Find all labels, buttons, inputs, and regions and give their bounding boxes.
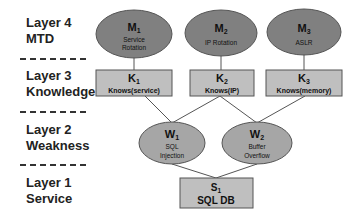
node-m2: M2 IP Rotation xyxy=(185,10,257,56)
node-k1-id: K xyxy=(128,72,136,84)
node-m3-id: M xyxy=(297,22,306,34)
edge-k3-w2 xyxy=(257,96,305,123)
node-k2-id: K xyxy=(216,72,224,84)
node-w1: W1 SQL Injection xyxy=(139,122,205,164)
layer-graph: M1 Service Rotation M2 IP Rotation M3 AS… xyxy=(0,0,359,220)
node-k3-label: Knows(memory) xyxy=(277,87,332,95)
node-w1-id: W xyxy=(165,128,176,140)
node-m2-label: IP Rotation xyxy=(205,39,237,46)
node-k3-id: K xyxy=(298,72,306,84)
node-m1-id: M xyxy=(127,21,136,33)
node-s1: S1 SQL DB xyxy=(180,178,253,208)
node-w1-label-2: Injection xyxy=(160,152,185,160)
node-k1-label: Knows(service) xyxy=(108,87,160,95)
node-w2-id: W xyxy=(250,128,261,140)
node-k2-label: Knows(IP) xyxy=(205,87,239,95)
node-m1: M1 Service Rotation xyxy=(96,10,172,58)
node-w2-label-2: Overflow xyxy=(244,152,270,159)
edge-k2-w1 xyxy=(172,96,220,123)
node-s1-label: SQL DB xyxy=(197,195,235,206)
edge-k1-w1 xyxy=(145,96,172,123)
node-m3-label: ASLR xyxy=(296,39,313,46)
node-m2-id: M xyxy=(214,22,223,34)
node-k2: K2 Knows(IP) xyxy=(190,70,254,96)
edge-k2-w2 xyxy=(220,96,257,123)
node-w1-label-1: SQL xyxy=(165,143,178,151)
node-k3: K3 Knows(memory) xyxy=(266,70,342,96)
node-m1-label-2: Rotation xyxy=(122,44,147,51)
node-w2: W2 Buffer Overflow xyxy=(222,122,292,164)
node-m1-label-1: Service xyxy=(123,36,145,43)
node-k1: K1 Knows(service) xyxy=(96,70,172,96)
node-w2-label-1: Buffer xyxy=(248,143,266,150)
node-m3: M3 ASLR xyxy=(267,9,341,55)
edge-w1-s1 xyxy=(172,164,216,178)
edge-w2-s1 xyxy=(216,164,257,178)
